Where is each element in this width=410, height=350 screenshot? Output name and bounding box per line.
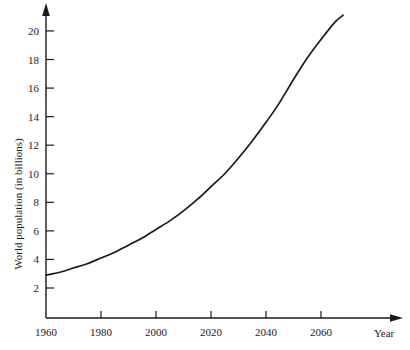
chart-plot-area	[0, 0, 410, 350]
x-tick-label: 2060	[310, 327, 332, 338]
x-tick-label: 1960	[35, 327, 57, 338]
y-axis-ticks	[46, 31, 54, 288]
x-axis-arrow-icon	[390, 314, 403, 322]
population-curve	[46, 15, 343, 275]
x-tick-label: 2020	[200, 327, 222, 338]
x-tick-label: 2000	[145, 327, 167, 338]
axis-lines	[42, 3, 403, 322]
x-axis-ticks	[101, 311, 321, 318]
x-axis-title: Year	[374, 327, 394, 339]
y-tick-label: 16	[8, 83, 39, 94]
y-axis-arrow-icon	[42, 3, 50, 16]
y-axis-title: World population (in billions)	[12, 94, 24, 314]
chart-figure: 2468101214161820 19601980200020202040206…	[0, 0, 410, 350]
x-tick-label: 1980	[90, 327, 112, 338]
x-tick-label: 2040	[255, 327, 277, 338]
y-tick-label: 20	[8, 25, 39, 36]
y-tick-label: 18	[8, 54, 39, 65]
